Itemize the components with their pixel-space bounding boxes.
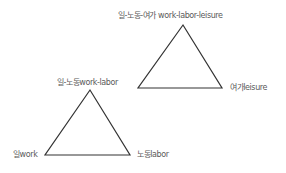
lower-triangle <box>45 90 130 155</box>
upper-triangle <box>138 25 222 88</box>
lower-left-label: 일work <box>13 148 37 159</box>
upper-right-label: 여가leisure <box>230 81 267 92</box>
lower-apex-label: 일-노동work-labor <box>57 76 118 87</box>
lower-right-label: 노동labor <box>137 148 169 159</box>
upper-apex-label: 일-노동-여가 work-labor-leisure <box>118 9 223 20</box>
